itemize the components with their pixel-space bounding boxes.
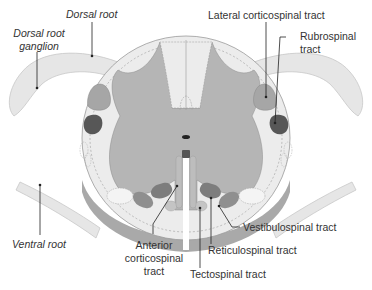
central-canal bbox=[182, 135, 190, 139]
label-anterior-corticospinal-tract: Anterior corticospinal tract bbox=[122, 239, 186, 278]
label-tectospinal-tract: Tectospinal tract bbox=[190, 268, 266, 281]
label-dorsal-root: Dorsal root bbox=[66, 8, 117, 21]
tectospinal-tract-right bbox=[195, 201, 207, 211]
label-rubrospinal-tract: Rubrospinal tract bbox=[300, 30, 356, 56]
label-reticulospinal-tract: Reticulospinal tract bbox=[208, 244, 297, 257]
anterior-corticospinal-tract-right bbox=[190, 156, 196, 208]
label-ventral-root: Ventral root bbox=[12, 238, 66, 251]
anterior-median-fissure bbox=[183, 152, 189, 250]
label-dorsal-root-ganglion: Dorsal root ganglion bbox=[10, 27, 68, 53]
anterior-corticospinal-tract-left bbox=[176, 156, 182, 208]
label-vestibulospinal-tract: Vestibulospinal tract bbox=[243, 221, 336, 234]
lateral-corticospinal-tract-left bbox=[88, 84, 111, 110]
label-lateral-corticospinal-tract: Lateral corticospinal tract bbox=[208, 9, 325, 22]
ventral-root-left bbox=[16, 182, 100, 238]
